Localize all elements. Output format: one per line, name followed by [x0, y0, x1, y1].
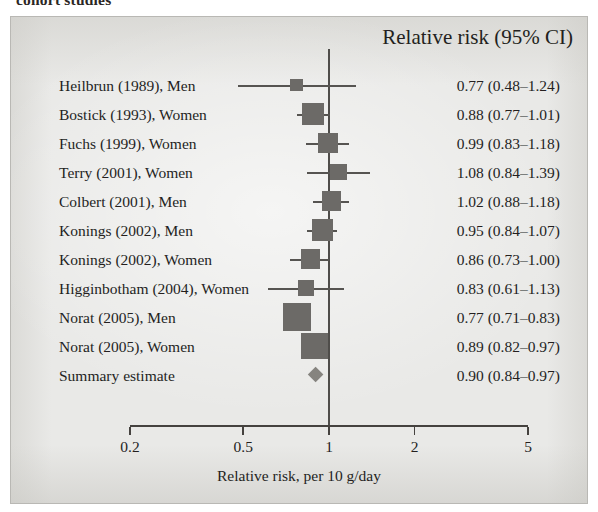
point-estimate-marker	[290, 79, 302, 91]
point-estimate-marker	[312, 219, 334, 241]
study-row: Heilbrun (1989), Men0.77 (0.48–1.24)	[11, 71, 587, 100]
summary-row: Summary estimate0.90 (0.84–0.97)	[11, 361, 587, 390]
point-estimate-marker	[322, 191, 342, 211]
study-label: Colbert (2001), Men	[59, 187, 187, 216]
x-axis-tick	[328, 427, 330, 435]
study-row: Higginbotham (2004), Women0.83 (0.61–1.1…	[11, 274, 587, 303]
forest-plot-canvas: Heilbrun (1989), Men0.77 (0.48–1.24)Bost…	[11, 17, 587, 503]
study-effect-value: 0.89 (0.82–0.97)	[457, 332, 560, 361]
study-effect-value: 1.02 (0.88–1.18)	[457, 187, 560, 216]
study-row: Bostick (1993), Women0.88 (0.77–1.01)	[11, 100, 587, 129]
x-axis-tick-label: 0.5	[234, 438, 253, 456]
forest-plot-figure: Relative risk (95% CI) Heilbrun (1989), …	[10, 16, 588, 504]
study-effect-value: 0.86 (0.73–1.00)	[457, 245, 560, 274]
x-axis-title: Relative risk, per 10 g/day	[11, 467, 587, 485]
study-label: Terry (2001), Women	[59, 158, 193, 187]
point-estimate-marker	[301, 333, 327, 359]
study-label: Summary estimate	[59, 361, 175, 390]
study-row: Terry (2001), Women1.08 (0.84–1.39)	[11, 158, 587, 187]
point-estimate-marker	[283, 303, 311, 331]
study-row: Norat (2005), Men0.77 (0.71–0.83)	[11, 303, 587, 332]
study-effect-value: 0.99 (0.83–1.18)	[457, 129, 560, 158]
study-effect-value: 1.08 (0.84–1.39)	[457, 158, 560, 187]
study-effect-value: 0.90 (0.84–0.97)	[457, 361, 560, 390]
x-axis-tick	[242, 427, 244, 435]
study-effect-value: 0.77 (0.48–1.24)	[457, 71, 560, 100]
x-axis-tick-label: 2	[411, 438, 419, 456]
study-label: Konings (2002), Women	[59, 245, 212, 274]
point-estimate-marker	[318, 133, 338, 153]
x-axis-tick-label: 0.2	[120, 438, 139, 456]
study-effect-value: 0.88 (0.77–1.01)	[457, 100, 560, 129]
study-row: Konings (2002), Men0.95 (0.84–1.07)	[11, 216, 587, 245]
point-estimate-marker	[301, 249, 321, 269]
point-estimate-marker	[302, 103, 324, 125]
x-axis-tick	[414, 427, 416, 435]
x-axis-tick	[129, 427, 131, 435]
study-effect-value: 0.95 (0.84–1.07)	[457, 216, 560, 245]
study-label: Higginbotham (2004), Women	[59, 274, 249, 303]
study-effect-value: 0.77 (0.71–0.83)	[457, 303, 560, 332]
study-row: Fuchs (1999), Women0.99 (0.83–1.18)	[11, 129, 587, 158]
x-axis-tick	[527, 427, 529, 435]
study-label: Konings (2002), Men	[59, 216, 193, 245]
x-axis-tick-label: 1	[325, 438, 333, 456]
study-label: Norat (2005), Men	[59, 303, 176, 332]
x-axis-tick-label: 5	[524, 438, 532, 456]
point-estimate-marker	[298, 280, 313, 295]
caption-fragment: cohort studies	[16, 0, 111, 9]
summary-diamond-marker	[308, 367, 324, 383]
study-row: Norat (2005), Women0.89 (0.82–0.97)	[11, 332, 587, 361]
study-label: Norat (2005), Women	[59, 332, 195, 361]
study-row: Colbert (2001), Men1.02 (0.88–1.18)	[11, 187, 587, 216]
point-estimate-marker	[330, 164, 347, 181]
study-label: Heilbrun (1989), Men	[59, 71, 195, 100]
study-row: Konings (2002), Women0.86 (0.73–1.00)	[11, 245, 587, 274]
study-label: Bostick (1993), Women	[59, 100, 207, 129]
study-effect-value: 0.83 (0.61–1.13)	[457, 274, 560, 303]
study-label: Fuchs (1999), Women	[59, 129, 197, 158]
